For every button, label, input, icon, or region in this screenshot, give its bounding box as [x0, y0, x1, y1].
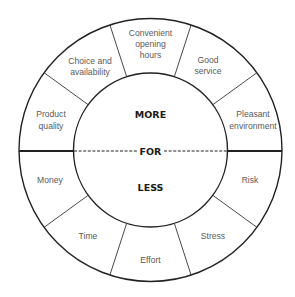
segment-product-quality: Product quality	[36, 109, 66, 131]
segment-pleasant-environment: Pleasant environment	[229, 109, 277, 131]
svg-text:Stress: Stress	[201, 231, 225, 241]
segment-risk: Risk	[242, 175, 259, 185]
segment-stress: Stress	[201, 231, 225, 241]
more-for-less-wheel-diagram: MORE FOR LESS Product quality Choice and…	[0, 0, 295, 297]
svg-text:Product: Product	[36, 109, 66, 119]
svg-text:Good: Good	[197, 55, 218, 65]
center-label-less: LESS	[138, 182, 164, 193]
svg-text:quality: quality	[39, 121, 65, 131]
svg-text:Convenient: Convenient	[129, 28, 173, 38]
svg-text:Time: Time	[79, 231, 98, 241]
center-label-more: MORE	[135, 109, 166, 120]
svg-text:Choice and: Choice and	[68, 56, 112, 66]
segment-good-service: Good service	[194, 55, 221, 76]
segment-effort: Effort	[140, 255, 161, 265]
segment-choice-availability: Choice and availability	[68, 56, 112, 77]
svg-text:Pleasant: Pleasant	[236, 109, 270, 119]
center-label-for: FOR	[140, 146, 163, 157]
segment-convenient-opening-hours: Convenient opening hours	[129, 28, 173, 60]
svg-text:opening: opening	[135, 39, 166, 49]
svg-text:Effort: Effort	[140, 255, 161, 265]
segment-money: Money	[37, 175, 63, 185]
svg-text:Risk: Risk	[242, 175, 259, 185]
svg-text:Money: Money	[37, 175, 63, 185]
svg-text:availability: availability	[70, 67, 110, 77]
svg-text:environment: environment	[229, 121, 277, 131]
svg-text:hours: hours	[140, 50, 162, 60]
svg-text:service: service	[194, 66, 221, 76]
segment-time: Time	[79, 231, 98, 241]
